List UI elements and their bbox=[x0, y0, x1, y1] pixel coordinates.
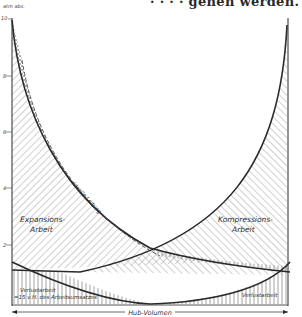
label-compression-line2: Arbeit bbox=[231, 225, 256, 234]
label-expansion-line1: Expansions- bbox=[20, 215, 66, 224]
y-tick-6: 6 bbox=[3, 129, 6, 135]
label-compression-line1: Kompressions- bbox=[218, 215, 273, 224]
label-stroke-volume: Hub-Volumen bbox=[128, 309, 172, 317]
y-tick-2: 2 bbox=[3, 242, 6, 248]
y-tick-10: 10 bbox=[1, 15, 7, 21]
label-expansion-line2: Arbeit bbox=[29, 225, 54, 234]
label-loss-left-line2: =15 v.H. des Arbeitsumsatzes bbox=[14, 294, 97, 300]
label-loss-left-line1: Verlustarbeit bbox=[20, 287, 56, 293]
label-loss-right: Verlustarbeit bbox=[242, 292, 278, 298]
y-axis-unit: atm abs. bbox=[3, 3, 25, 9]
y-tick-4: 4 bbox=[3, 185, 6, 191]
y-tick-8: 8 bbox=[3, 73, 6, 79]
stroke-volume-dimension: Hub-Volumen bbox=[12, 309, 288, 317]
pv-diagram: atm abs. 10 8 6 4 2 Expansions- Arbeit K… bbox=[0, 0, 302, 317]
